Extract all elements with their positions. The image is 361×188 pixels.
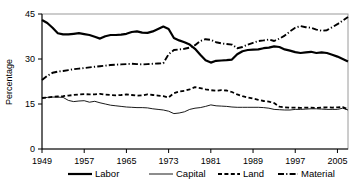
x-tick-label-1997: 1997 [285, 156, 305, 166]
y-tick-label-30: 30 [25, 54, 35, 64]
x-tick-label-1957: 1957 [74, 156, 94, 166]
x-tick-label-1989: 1989 [243, 156, 263, 166]
y-tick-label-15: 15 [25, 99, 35, 109]
x-tick-marks [42, 149, 337, 153]
x-tick-label-1965: 1965 [116, 156, 136, 166]
x-tick-label-1981: 1981 [201, 156, 221, 166]
x-tick-label-1949: 1949 [32, 156, 52, 166]
chart-container: 45 30 15 0 Percentage 194919571965197319… [0, 0, 361, 188]
legend-label-capital: Capital [176, 168, 206, 179]
x-tick-label-1973: 1973 [159, 156, 179, 166]
legend-label-labor: Labor [95, 168, 119, 179]
chart-legend: LaborCapitalLandMaterial [68, 168, 335, 179]
legend-label-land: Land [243, 168, 264, 179]
y-tick-label-0: 0 [30, 144, 35, 154]
x-tick-labels: 19491957196519731981198919972005 [32, 156, 347, 166]
x-tick-label-2005: 2005 [327, 156, 347, 166]
legend-label-material: Material [301, 168, 335, 179]
line-chart: 45 30 15 0 Percentage 194919571965197319… [0, 0, 361, 188]
y-tick-marks [38, 14, 42, 149]
y-tick-label-45: 45 [25, 9, 35, 19]
y-axis-title: Percentage [4, 59, 14, 105]
